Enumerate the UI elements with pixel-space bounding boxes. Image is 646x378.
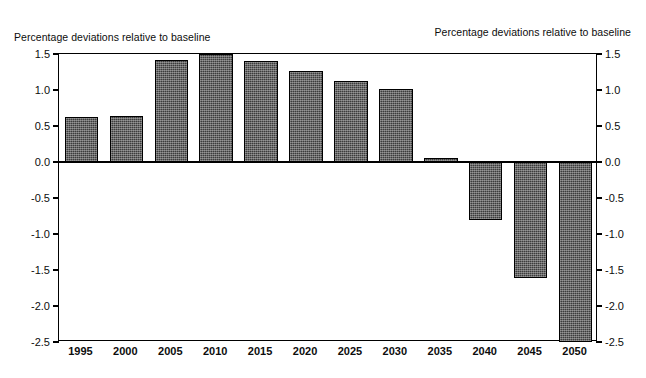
y-tick-mark-right: [596, 269, 602, 271]
y-tick-mark-left: [53, 233, 59, 235]
y-tick-mark-right: [596, 305, 602, 307]
y-tick-label-left: 1.0: [35, 85, 50, 96]
y-tick-label-right: -2.5: [605, 337, 624, 348]
y-tick-label-right: -2.0: [605, 301, 624, 312]
x-tick-label-2010: 2010: [193, 345, 238, 357]
y-tick-mark-right: [596, 161, 602, 163]
bar-2015: [244, 61, 277, 162]
y-tick-mark-right: [596, 233, 602, 235]
y-tick-label-right: 0.0: [605, 157, 620, 168]
x-tick-label-2015: 2015: [238, 345, 283, 357]
y-tick-label-left: -2.0: [31, 301, 50, 312]
chart-figure: Percentage deviations relative to baseli…: [0, 0, 646, 378]
left-axis-title: Percentage deviations relative to baseli…: [14, 31, 210, 43]
x-tick-label-2005: 2005: [148, 345, 193, 357]
bar-2030: [379, 89, 412, 162]
x-tick-label-2030: 2030: [372, 345, 417, 357]
bar-2020: [289, 71, 322, 162]
y-tick-mark-left: [53, 53, 59, 55]
x-tick-label-2040: 2040: [462, 345, 507, 357]
bar-1995: [65, 117, 98, 162]
y-tick-label-right: -1.0: [605, 229, 624, 240]
y-tick-mark-right: [596, 341, 602, 343]
bar-2050: [559, 162, 592, 342]
y-tick-mark-right: [596, 89, 602, 91]
y-tick-label-right: 0.5: [605, 121, 620, 132]
y-tick-mark-right: [596, 53, 602, 55]
y-tick-mark-left: [53, 269, 59, 271]
x-tick-label-2045: 2045: [507, 345, 552, 357]
y-tick-label-right: 1.0: [605, 85, 620, 96]
x-tick-label-2000: 2000: [103, 345, 148, 357]
y-tick-label-left: -1.5: [31, 265, 50, 276]
y-tick-mark-right: [596, 197, 602, 199]
bar-2040: [469, 162, 502, 220]
y-tick-mark-left: [53, 89, 59, 91]
x-tick-label-2025: 2025: [328, 345, 373, 357]
y-tick-label-left: -2.5: [31, 337, 50, 348]
y-tick-label-right: 1.5: [605, 49, 620, 60]
y-tick-mark-right: [596, 125, 602, 127]
y-tick-mark-left: [53, 341, 59, 343]
y-tick-mark-left: [53, 305, 59, 307]
y-tick-label-right: -0.5: [605, 193, 624, 204]
y-tick-label-left: 0.5: [35, 121, 50, 132]
bar-2000: [110, 116, 143, 162]
right-axis-title: Percentage deviations relative to baseli…: [435, 26, 631, 38]
bar-2045: [514, 162, 547, 278]
y-tick-label-left: 0.0: [35, 157, 50, 168]
y-tick-label-right: -1.5: [605, 265, 624, 276]
plot-area: 1.51.00.50.0-0.5-1.0-1.5-2.0-2.5 1.51.00…: [58, 53, 597, 341]
bar-2010: [199, 54, 232, 162]
y-tick-label-left: 1.5: [35, 49, 50, 60]
bar-2005: [155, 60, 188, 162]
x-tick-label-1995: 1995: [58, 345, 103, 357]
zero-baseline: [59, 161, 596, 163]
y-tick-label-left: -1.0: [31, 229, 50, 240]
y-tick-label-left: -0.5: [31, 193, 50, 204]
x-tick-label-2035: 2035: [417, 345, 462, 357]
x-tick-label-2050: 2050: [552, 345, 597, 357]
x-tick-label-2020: 2020: [283, 345, 328, 357]
y-tick-mark-left: [53, 125, 59, 127]
y-tick-mark-left: [53, 197, 59, 199]
bar-2025: [334, 81, 367, 162]
